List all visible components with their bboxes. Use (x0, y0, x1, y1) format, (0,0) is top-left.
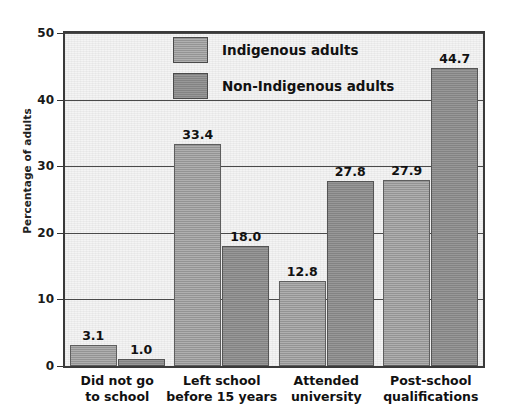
plot-area: 3.11.033.418.012.827.827.944.7 Indigenou… (63, 31, 485, 368)
bar (383, 180, 430, 366)
y-axis-tick-label: 50 (0, 26, 54, 40)
bar-value-label: 27.9 (391, 163, 422, 178)
bar-value-label: 12.8 (287, 264, 318, 279)
legend-entry: Non-Indigenous adults (173, 73, 394, 99)
y-axis-tick-mark (57, 366, 63, 367)
x-axis-category-label: Post-schoolqualifications (356, 373, 506, 404)
bar (174, 144, 221, 366)
chart-legend: Indigenous adultsNon-Indigenous adults (173, 37, 394, 99)
bar (118, 359, 165, 366)
bar-chart-figure: Percentage of adults 3.11.033.418.012.82… (0, 0, 512, 419)
bar-value-label: 27.8 (335, 164, 366, 179)
y-axis-tick-label: 40 (0, 93, 54, 107)
bar-value-label: 1.0 (130, 342, 152, 357)
y-axis-tick-label: 30 (0, 159, 54, 173)
bar (70, 345, 117, 366)
category-label-line1: Post-school (390, 373, 472, 388)
y-axis-tick-label: 10 (0, 292, 54, 306)
legend-label: Indigenous adults (222, 42, 358, 58)
category-label-line1: Left school (183, 373, 260, 388)
category-label-line1: Attended (294, 373, 359, 388)
bar-value-label: 18.0 (230, 229, 261, 244)
bar-value-label: 33.4 (182, 127, 213, 142)
bar (327, 181, 374, 366)
legend-label: Non-Indigenous adults (222, 78, 394, 94)
y-axis-tick-label: 20 (0, 226, 54, 240)
y-axis-tick-mark (57, 233, 63, 234)
bar (279, 281, 326, 366)
bar (222, 246, 269, 366)
gridline (65, 100, 483, 101)
legend-swatch (173, 37, 208, 63)
y-axis-tick-mark (57, 299, 63, 300)
y-axis-tick-label: 0 (0, 359, 54, 373)
y-axis-tick-mark (57, 100, 63, 101)
category-label-line1: Did not go (81, 373, 154, 388)
legend-swatch (173, 73, 208, 99)
bar-value-label: 3.1 (82, 328, 104, 343)
y-axis-tick-mark (57, 166, 63, 167)
bar-value-label: 44.7 (439, 51, 470, 66)
gridline (65, 33, 483, 34)
y-axis-tick-mark (57, 33, 63, 34)
category-label-line2: qualifications (356, 389, 506, 405)
bar (431, 68, 478, 366)
legend-entry: Indigenous adults (173, 37, 394, 63)
